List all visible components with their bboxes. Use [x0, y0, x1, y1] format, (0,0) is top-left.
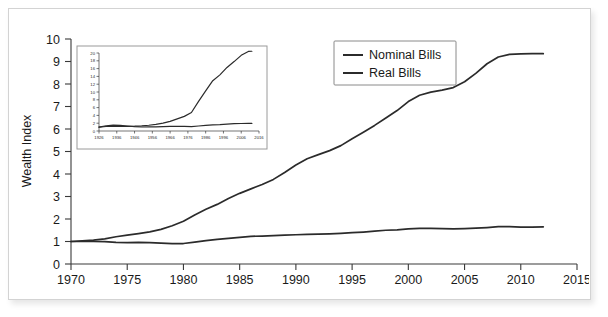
inset-y-tick-label: 20 [90, 51, 95, 56]
inset-y-tick-label: 14 [90, 74, 95, 79]
x-tick-label: 1975 [113, 273, 141, 287]
x-tick-label: 2000 [394, 273, 422, 287]
x-tick-label: 2010 [507, 273, 535, 287]
y-tick-label: 10 [46, 33, 60, 47]
chart-figure: 012345678910 197019751980198519901995200… [0, 0, 608, 317]
inset-frame [77, 46, 267, 149]
x-axis-ticks: 1970197519801985199019952000200520102015 [57, 264, 589, 287]
wealth-index-plot: 012345678910 197019751980198519901995200… [9, 9, 589, 298]
inset-x-tick-label: 1956 [148, 135, 158, 140]
y-tick-label: 8 [53, 78, 60, 92]
inset-x-tick-label: 1976 [183, 135, 193, 140]
x-tick-label: 2015 [563, 273, 589, 287]
inset-x-tick-label: 1996 [219, 135, 229, 140]
y-tick-label: 1 [53, 235, 60, 249]
y-axis-ticks: 012345678910 [46, 33, 71, 272]
series-line-real-bills [71, 227, 543, 244]
y-tick-label: 6 [53, 123, 60, 137]
inset-y-tick-label: 10 [90, 90, 95, 95]
legend-label-nominal-bills: Nominal Bills [369, 48, 441, 62]
inset-x-tick-label: 2006 [237, 135, 247, 140]
inset-x-tick-label: 1936 [112, 135, 122, 140]
x-tick-label: 1985 [226, 273, 254, 287]
x-tick-label: 1990 [282, 273, 310, 287]
y-axis-title: Wealth Index [20, 114, 34, 187]
inset-x-tick-label: 1966 [165, 135, 175, 140]
inset-y-tick-label: 16 [90, 66, 95, 71]
y-tick-label: 2 [53, 213, 60, 227]
chart-legend[interactable]: Nominal Bills Real Bills [334, 41, 456, 85]
x-tick-label: 2005 [451, 273, 479, 287]
inset-x-tick-label: 1926 [94, 135, 104, 140]
inset-x-tick-label: 2016 [254, 135, 264, 140]
x-tick-label: 1970 [57, 273, 85, 287]
y-tick-label: 4 [53, 168, 60, 182]
y-tick-label: 9 [53, 55, 60, 69]
x-tick-label: 1995 [338, 273, 366, 287]
y-tick-label: 0 [53, 258, 60, 272]
y-tick-label: 3 [53, 190, 60, 204]
legend-label-real-bills: Real Bills [369, 66, 421, 80]
inset-x-tick-label: 1946 [130, 135, 140, 140]
y-tick-label: 7 [53, 100, 60, 114]
inset-x-tick-label: 1986 [201, 135, 211, 140]
inset-y-tick-label: 18 [90, 58, 95, 63]
y-tick-label: 5 [53, 145, 60, 159]
inset-chart: 02468101214161820 1926193619461956196619… [77, 46, 267, 149]
x-tick-label: 1980 [170, 273, 198, 287]
inset-y-tick-label: 12 [90, 82, 95, 87]
chart-frame: 012345678910 197019751980198519901995200… [8, 8, 591, 300]
